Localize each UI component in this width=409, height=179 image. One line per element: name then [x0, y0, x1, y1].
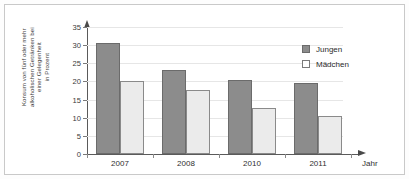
- y-axis-tick-label: 35: [73, 23, 81, 32]
- bar-2007-jungen: [96, 43, 120, 154]
- y-axis-tick: [83, 100, 87, 101]
- chart-figure: Konsum von fünf oder mehr alkoholischen …: [0, 0, 409, 179]
- x-axis-separator: [285, 154, 286, 158]
- x-axis-tick-label: 2008: [162, 159, 210, 168]
- y-axis-tick-label: 15: [73, 95, 81, 104]
- y-axis-tick: [83, 45, 87, 46]
- y-axis-title-line-3: einer Gelegenheit: [35, 0, 43, 137]
- bar-2008-maedchen: [186, 90, 210, 154]
- x-axis-tick-label: 2010: [228, 159, 276, 168]
- y-axis-tick-label: 10: [73, 113, 81, 122]
- y-axis-tick-label: 25: [73, 59, 81, 68]
- x-axis-separator: [87, 154, 88, 158]
- arrow-right-icon: [358, 150, 366, 156]
- bar-2007-maedchen: [120, 81, 144, 154]
- y-axis-tick: [83, 118, 87, 119]
- plot-area: 05101520253035 2007200820102011 Jahr Jun…: [87, 23, 372, 158]
- bar-2010-jungen: [228, 80, 252, 154]
- y-axis-title-line-2: alkoholischen Getränken bei: [27, 0, 35, 137]
- x-axis-tick-label: 2011: [294, 159, 342, 168]
- y-axis-tick: [83, 27, 87, 28]
- x-axis-separator: [219, 154, 220, 158]
- chart-legend: Jungen Mädchen: [302, 43, 349, 73]
- bar-2008-jungen: [162, 70, 186, 154]
- x-axis-tick-label: 2007: [96, 159, 144, 168]
- y-axis-tick: [83, 81, 87, 82]
- y-axis-tick-label: 30: [73, 41, 81, 50]
- bar-2010-maedchen: [252, 108, 276, 154]
- bar-group: [162, 27, 210, 154]
- x-axis-separator: [153, 154, 154, 158]
- y-axis-tick-label: 20: [73, 77, 81, 86]
- y-axis-tick-label: 0: [77, 150, 81, 159]
- y-axis-tick: [83, 63, 87, 64]
- y-axis-title: Konsum von fünf oder mehr alkoholischen …: [20, 0, 50, 137]
- legend-item-maedchen: Mädchen: [302, 58, 349, 70]
- legend-label-maedchen: Mädchen: [316, 60, 349, 69]
- legend-item-jungen: Jungen: [302, 43, 349, 55]
- y-axis-tick: [83, 136, 87, 137]
- bar-group: [96, 27, 144, 154]
- y-axis-tick-label: 5: [77, 131, 81, 140]
- legend-swatch-maedchen-icon: [302, 60, 310, 68]
- y-axis-title-line-4: in Prozent: [43, 0, 51, 137]
- bar-2011-maedchen: [318, 116, 342, 154]
- y-axis-title-line-1: Konsum von fünf oder mehr: [20, 0, 28, 137]
- bar-group: [228, 27, 276, 154]
- x-axis-title: Jahr: [362, 159, 378, 168]
- chart-frame: Konsum von fünf oder mehr alkoholischen …: [4, 4, 405, 175]
- legend-label-jungen: Jungen: [316, 45, 342, 54]
- x-axis-separator: [351, 154, 352, 158]
- bar-2011-jungen: [294, 83, 318, 154]
- x-axis-line: [87, 154, 359, 155]
- legend-swatch-jungen-icon: [302, 45, 310, 53]
